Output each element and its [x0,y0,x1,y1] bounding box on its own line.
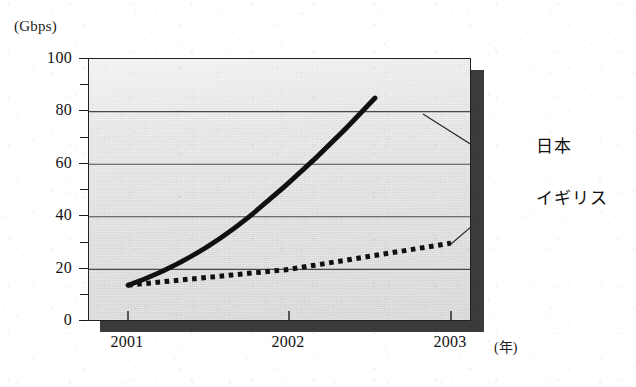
x-axis-ticks [128,311,451,321]
plot-texture [89,59,470,320]
xtick-label-2003: 2003 [433,333,466,351]
ytick-mark-50 [80,189,88,190]
ytick-label-0: 0 [16,311,72,329]
ytick-mark-90 [80,84,88,85]
ytick-label-20: 20 [16,259,72,277]
ytick-mark-70 [80,137,88,138]
ytick-label-100: 100 [16,49,72,67]
ytick-label-60: 60 [16,154,72,172]
ytick-mark-40 [79,215,88,216]
y-axis-unit-label: (Gbps) [14,18,57,35]
plot-inner-graphics [89,59,471,321]
gridlines [89,112,471,270]
series-label-uk: イギリス [536,184,608,209]
ytick-mark-10 [80,294,88,295]
ytick-label-80: 80 [16,101,72,119]
leader-line-japan [423,114,471,145]
series-line-uk [128,243,451,285]
x-axis-unit-label: (年) [494,336,517,356]
ytick-mark-60 [79,163,88,164]
ytick-label-40: 40 [16,206,72,224]
xtick-label-2002: 2002 [271,333,304,351]
series-line-japan [128,98,375,285]
ytick-mark-100 [79,58,88,59]
chart-figure: (Gbps) [0,0,636,387]
plot-area [88,58,471,321]
ytick-mark-0 [79,320,88,321]
xtick-label-2001: 2001 [110,333,143,351]
leader-line-uk [451,226,471,244]
ytick-mark-30 [80,242,88,243]
ytick-mark-80 [79,110,88,111]
series-label-japan: 日本 [536,132,572,157]
ytick-mark-20 [79,268,88,269]
plot-sheen [89,59,470,320]
